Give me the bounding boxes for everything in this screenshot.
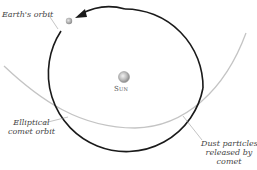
earth-orbit-arc-upper (125, 9, 203, 88)
dust-leader (183, 116, 202, 140)
comet-orbit-label: Elliptical comet orbit (8, 118, 55, 136)
comet-orbit-label-line1: Elliptical (8, 118, 55, 127)
dust-particles-label: Dust particles released by comet (201, 139, 257, 166)
earth-icon (66, 18, 72, 24)
sun-icon (119, 72, 130, 83)
dust-label-line2: released by (201, 148, 257, 157)
dust-label-line3: comet (201, 157, 257, 166)
orbit-direction-arrow (81, 7, 125, 14)
arrowhead-icon (75, 9, 87, 18)
sun-label: Sun (114, 85, 128, 93)
meteor-shower-diagram: Earth's orbit Sun Elliptical comet orbit… (0, 0, 257, 170)
comet-orbit-label-line2: comet orbit (8, 127, 55, 136)
dust-label-line1: Dust particles (201, 139, 257, 148)
earth-orbit-label: Earth's orbit (2, 10, 53, 19)
